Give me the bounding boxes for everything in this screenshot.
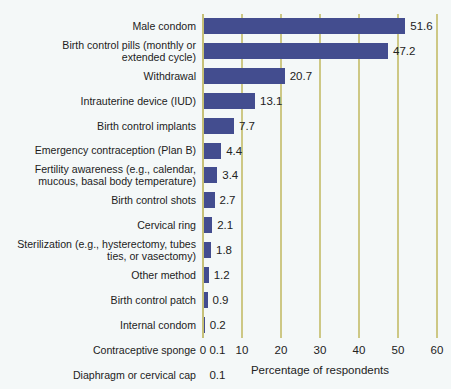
gridline [280,14,282,338]
bar [204,68,285,84]
category-label: Other method [0,269,196,281]
bar-value-label: 0.9 [213,292,229,308]
bar-value-label: 20.7 [290,68,312,84]
category-label: Birth control implants [0,120,196,132]
x-tick-label: 10 [222,344,262,356]
bar-chart: Male condomBirth control pills (monthly … [0,0,451,389]
x-tick-label: 60 [417,344,451,356]
x-tick-label: 50 [378,344,418,356]
bar [204,242,211,258]
bar [204,317,205,333]
gridline [358,14,360,338]
bar [204,292,208,308]
gridline [436,14,438,338]
gridline [241,14,243,338]
bar-value-label: 7.7 [239,118,255,134]
x-axis-title: Percentage of respondents [202,364,438,376]
bar-value-label: 51.6 [410,18,432,34]
category-label: Fertility awareness (e.g., calendar, muc… [0,163,196,187]
category-label: Birth control pills (monthly or extended… [0,39,196,63]
bar [204,167,217,183]
category-label: Male condom [0,20,196,32]
bar [204,43,388,59]
category-label: Cervical ring [0,219,196,231]
bar-value-label: 2.1 [217,217,233,233]
x-tick-label: 40 [339,344,379,356]
bar [204,267,209,283]
category-label: Emergency contraception (Plan B) [0,144,196,156]
x-tick-label: 30 [300,344,340,356]
y-axis-line [202,14,204,338]
bar-value-label: 47.2 [393,43,415,59]
bar [204,93,255,109]
x-tick-label: 0 [183,344,223,356]
bar-value-label: 1.8 [216,242,232,258]
category-label: Contraceptive sponge [0,344,196,356]
category-label: Sterilization (e.g., hysterectomy, tubes… [0,238,196,262]
bar-value-label: 4.4 [226,143,242,159]
bar-value-label: 1.2 [214,267,230,283]
bar [204,18,405,34]
gridline [319,14,321,338]
bar-value-label: 3.4 [222,167,238,183]
gridline [397,14,399,338]
bar-value-label: 2.7 [220,192,236,208]
bar-value-label: 13.1 [260,93,282,109]
category-axis-labels: Male condomBirth control pills (monthly … [0,0,196,389]
bar-value-label: 0.2 [210,317,226,333]
bar [204,192,215,208]
bar [204,118,234,134]
bar [204,217,212,233]
category-label: Intrauterine device (IUD) [0,95,196,107]
category-label: Birth control patch [0,294,196,306]
category-label: Withdrawal [0,70,196,82]
bar [204,143,221,159]
category-label: Internal condom [0,319,196,331]
plot-area: 51.647.220.713.17.74.43.42.72.11.81.20.9… [202,14,436,338]
category-label: Diaphragm or cervical cap [0,369,196,381]
category-label: Birth control shots [0,194,196,206]
x-tick-label: 20 [261,344,301,356]
